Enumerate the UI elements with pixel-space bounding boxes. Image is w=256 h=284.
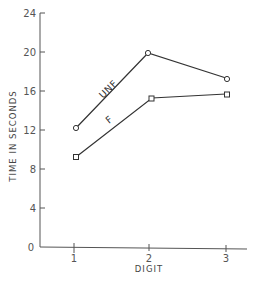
series-f-line [76, 94, 226, 157]
y-tick-20: 20 [23, 47, 36, 58]
y-ticks [40, 13, 45, 208]
y-tick-8: 8 [30, 164, 36, 175]
x-axis [40, 247, 247, 249]
x-axis-title: DIGIT [135, 264, 163, 274]
unf-marker-3 [224, 76, 229, 81]
x-tick-2: 2 [146, 253, 152, 264]
f-marker-3 [225, 92, 230, 97]
line-chart: 24 20 16 12 8 4 0 1 2 3 DIGIT TIME IN SE… [0, 0, 256, 284]
y-tick-4: 4 [30, 203, 36, 214]
unf-marker-2 [145, 50, 150, 55]
y-tick-24: 24 [23, 8, 36, 19]
series-label-unf: UNF [97, 78, 120, 101]
f-marker-1 [74, 155, 79, 160]
series-label-f: F [103, 113, 115, 125]
f-marker-2 [149, 96, 154, 101]
y-tick-16: 16 [23, 86, 36, 97]
x-tick-1: 1 [71, 253, 77, 264]
y-tick-0: 0 [28, 242, 34, 253]
x-tick-3: 3 [223, 253, 229, 264]
y-axis-title: TIME IN SECONDS [8, 90, 18, 182]
y-tick-12: 12 [23, 125, 36, 136]
unf-marker-1 [73, 125, 78, 130]
